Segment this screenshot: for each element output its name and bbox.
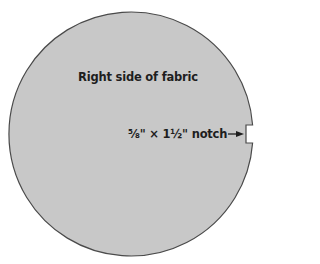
notch-label: ⅝" × 1½" notch (128, 127, 227, 141)
fabric-side-label: Right side of fabric (78, 70, 198, 84)
